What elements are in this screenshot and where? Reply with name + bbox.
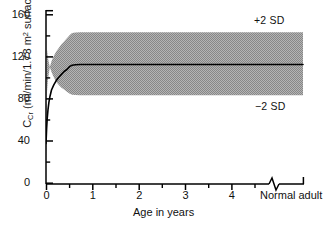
x-tick-label-2: 2	[132, 190, 146, 201]
y-axis-title-wrap: CCr (ml/min/1.73 m2 surface area)	[17, 0, 33, 131]
annotation-minus-2-sd: −2 SD	[255, 101, 285, 112]
annotation-plus-2-sd: +2 SD	[254, 15, 284, 26]
y-tick-label-40: 40	[4, 135, 30, 146]
x-axis-title: Age in years	[133, 207, 194, 218]
x-tick-label-4: 4	[225, 190, 239, 201]
x-tick-label-1: 1	[86, 190, 100, 201]
chart-figure: 160 120 80 40 0 0 1 2 3 4 Normal adult A…	[0, 0, 331, 229]
x-tick-label-0: 0	[40, 190, 54, 201]
y-axis-title: CCr (ml/min/1.73 m2 surface area)	[21, 0, 35, 128]
y-tick-label-0: 0	[4, 177, 30, 188]
x-category-label-normal-adult: Normal adult	[260, 190, 322, 201]
x-tick-label-3: 3	[179, 190, 193, 201]
